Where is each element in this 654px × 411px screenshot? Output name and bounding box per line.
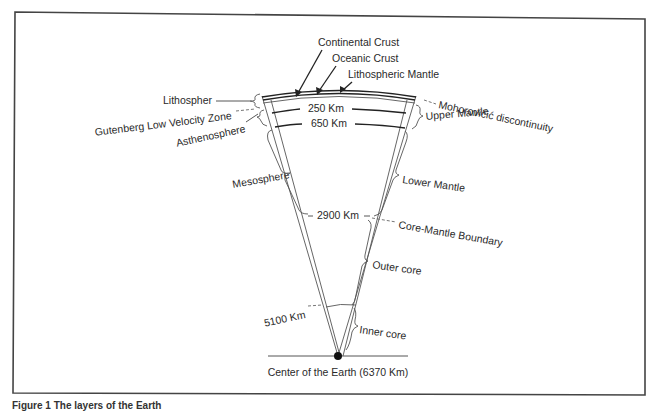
label-upper-mantle: Upper Mantle — [425, 105, 489, 122]
depth-5100-label: 5100 Km — [263, 308, 307, 329]
center-point — [334, 352, 342, 360]
upper-mantle-brace — [412, 105, 423, 129]
lithosphere-brace — [250, 94, 260, 108]
label-core-mantle-boundary: Core-Mantle Boundary — [398, 218, 505, 248]
label-outer-core: Outer core — [372, 258, 423, 277]
depth-250-label: 250 Km — [308, 102, 344, 114]
depth-5100-arc — [326, 304, 356, 307]
outer-core-brace — [352, 220, 371, 305]
inner-core-brace — [346, 308, 358, 350]
depth-2900-label: 2900 Km — [317, 209, 359, 221]
lower-mantle-brace — [374, 131, 407, 216]
label-oceanic-crust: Oceanic Crust — [332, 52, 399, 64]
depth-650-label: 650 Km — [311, 117, 347, 129]
label-inner-core: Inner core — [359, 323, 408, 341]
asthenosphere-brace — [257, 110, 267, 126]
label-lower-mantle: Lower Mantle — [402, 173, 466, 194]
label-continental-crust: Continental Crust — [318, 36, 399, 48]
figure-frame — [13, 12, 645, 395]
center-label: Center of the Earth (6370 Km) — [268, 366, 409, 378]
label-lithosphere: Lithospher — [163, 94, 213, 106]
label-lithospheric-mantle: Lithospheric Mantle — [348, 68, 439, 80]
figure-caption: Figure 1 The layers of the Earth — [12, 400, 161, 411]
